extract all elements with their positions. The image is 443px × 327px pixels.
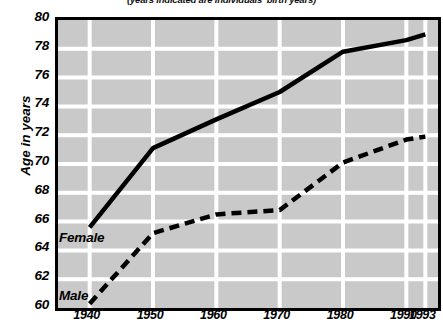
gridlines [58,20,438,308]
plot-area [55,17,441,311]
series-line-female [90,34,426,227]
series-label-female: Female [59,231,104,245]
series-label-male: Male [59,289,88,303]
life-expectancy-line-chart: (years indicated are individuals' birth … [0,0,443,327]
plot-canvas [58,20,438,308]
data-series-layer [90,34,426,303]
